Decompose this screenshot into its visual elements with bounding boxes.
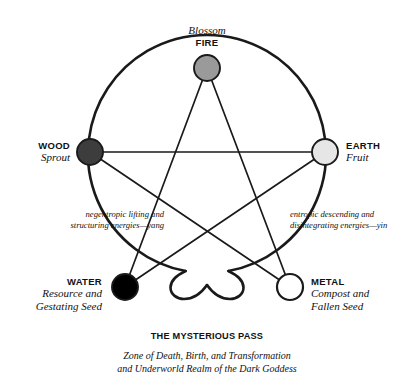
star-edge-fire-water	[125, 68, 207, 287]
node-phase-water-line-1: Resource and	[0, 287, 102, 300]
node-label-wood: WOOD Sprout	[0, 140, 70, 164]
node-water[interactable]	[112, 274, 138, 300]
element-nodes	[77, 55, 338, 300]
caption-line-1: Zone of Death, Birth, and Transformation	[87, 349, 327, 362]
annotation-yang-line-1: negentropic lifting and	[14, 209, 164, 220]
node-phase-metal-line-1: Compost and	[311, 287, 414, 300]
node-wood[interactable]	[77, 139, 103, 165]
lemniscate-left-loop	[171, 271, 208, 299]
lemniscate-right-loop	[207, 271, 244, 299]
node-phase-wood: Sprout	[0, 151, 70, 164]
node-label-water: WATER Resource and Gestating Seed	[0, 276, 102, 313]
node-phase-earth: Fruit	[346, 151, 414, 164]
caption-title: THE MYSTERIOUS PASS	[87, 331, 327, 342]
node-element-earth: EARTH	[346, 140, 414, 151]
caption-line-2: and Underworld Realm of the Dark Goddess	[87, 362, 327, 375]
star-edge-metal-fire	[207, 68, 290, 287]
five-element-wheel-diagram: Blossom FIRE WOOD Sprout EARTH Fruit WAT…	[0, 0, 414, 387]
caption-mysterious-pass: THE MYSTERIOUS PASS Zone of Death, Birth…	[87, 331, 327, 375]
node-phase-water-line-2: Gestating Seed	[0, 300, 102, 313]
pentagram-star	[90, 68, 325, 287]
node-metal[interactable]	[277, 274, 303, 300]
annotation-yin-line-2: disintegrating energies—yin	[290, 220, 414, 231]
node-element-metal: METAL	[311, 276, 414, 287]
annotation-yang-line-2: structuring energies—yang	[14, 220, 164, 231]
node-fire[interactable]	[194, 55, 220, 81]
annotation-yin-line-1: entropic descending and	[290, 209, 414, 220]
node-phase-metal-line-2: Fallen Seed	[311, 300, 414, 313]
node-element-water: WATER	[0, 276, 102, 287]
node-element-wood: WOOD	[0, 140, 70, 151]
node-element-fire: FIRE	[157, 37, 257, 48]
node-earth[interactable]	[312, 139, 338, 165]
node-label-earth: EARTH Fruit	[346, 140, 414, 164]
annotation-yin: entropic descending and disintegrating e…	[290, 209, 414, 230]
node-label-metal: METAL Compost and Fallen Seed	[311, 276, 414, 313]
node-phase-fire: Blossom	[157, 24, 257, 37]
annotation-yang: negentropic lifting and structuring ener…	[14, 209, 164, 230]
diagram-canvas	[0, 0, 414, 387]
mysterious-pass-lemniscate	[171, 271, 244, 299]
node-label-fire: Blossom FIRE	[157, 24, 257, 48]
